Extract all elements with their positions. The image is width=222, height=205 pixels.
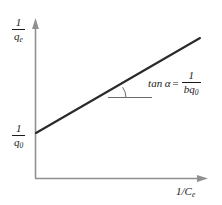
langmuir-isotherm-figure: 1 qe 1 q0 1/Ce tan α = 1 bq0 <box>0 0 222 205</box>
plot-canvas <box>0 0 222 205</box>
x-axis <box>35 175 208 182</box>
y-axis-label: 1 qe <box>12 17 25 42</box>
y-intercept-label: 1 q0 <box>12 123 25 148</box>
slope-annotation: tan α = 1 bq0 <box>148 70 201 95</box>
slope-annotation-lhs: tan α <box>148 77 171 89</box>
x-axis-arrowhead <box>197 175 208 182</box>
x-axis-label-subscript: e <box>192 190 195 199</box>
slope-annotation-equals: = <box>173 77 179 89</box>
y-axis-label-subscript: e <box>20 35 23 44</box>
y-axis-label-numerator: 1 <box>12 17 25 29</box>
y-intercept-numerator: 1 <box>12 123 25 135</box>
y-axis-label-denominator: qe <box>12 31 25 43</box>
slope-annotation-fraction: 1 bq0 <box>182 70 201 95</box>
y-intercept-denominator: q0 <box>12 137 25 149</box>
x-axis-label: 1/Ce <box>176 185 195 197</box>
x-axis-label-text: 1/C <box>176 185 192 197</box>
y-axis <box>32 18 39 178</box>
slope-annotation-denominator: bq0 <box>182 84 201 96</box>
angle-alpha-arc <box>123 87 126 97</box>
y-intercept-subscript: 0 <box>20 141 24 150</box>
y-axis-arrowhead <box>32 18 39 29</box>
slope-annotation-subscript: 0 <box>195 88 199 97</box>
slope-annotation-numerator: 1 <box>182 70 201 82</box>
